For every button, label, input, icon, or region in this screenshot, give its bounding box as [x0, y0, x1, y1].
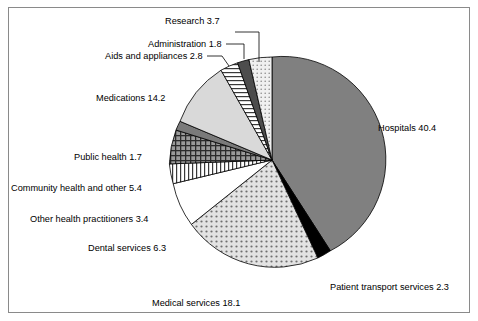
label-medications: Medications 14.2 [96, 93, 165, 104]
label-research: Research 3.7 [165, 16, 220, 27]
label-hospitals: Hospitals 40.4 [378, 123, 436, 134]
label-dental-services: Dental services 6.3 [88, 243, 166, 254]
label-aids-and-appliances: Aids and appliances 2.8 [105, 51, 203, 62]
label-administration: Administration 1.8 [148, 39, 222, 50]
label-other-health-practitioners: Other health practitioners 3.4 [30, 214, 148, 225]
pie-slices [169, 56, 385, 267]
leader-research [235, 32, 259, 62]
pie-chart-svg [0, 0, 478, 321]
leader-aids-and-appliances [207, 56, 229, 66]
label-patient-transport-services: Patient transport services 2.3 [330, 282, 449, 293]
leader-administration [226, 44, 244, 59]
label-community-health-and-other: Community health and other 5.4 [11, 183, 142, 194]
label-medical-services: Medical services 18.1 [152, 298, 240, 309]
pie-chart: Hospitals 40.4 Patient transport service… [0, 0, 478, 321]
label-public-health: Public health 1.7 [74, 152, 142, 163]
